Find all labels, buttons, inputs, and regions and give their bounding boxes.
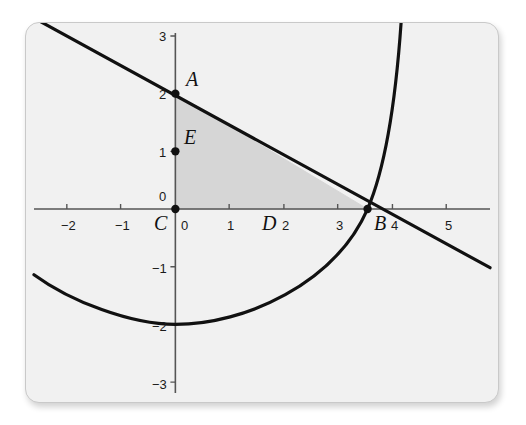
point-label-a: A [186, 69, 198, 89]
y-tick-label--3: −3 [152, 378, 167, 391]
point-label-d: D [262, 213, 276, 233]
x-tick-label-2: 2 [282, 219, 289, 232]
x-tick-label--2: −2 [61, 219, 76, 232]
y-tick-label-1: 1 [159, 146, 166, 159]
y-tick-label-2: 2 [159, 88, 166, 101]
figure-card: −2 −1 0 1 2 3 4 5 3 2 1 0 −1 −2 −3 A E C… [25, 22, 499, 403]
y-tick-label--1: −1 [152, 262, 167, 275]
point-label-e: E [184, 127, 196, 147]
point-b[interactable] [363, 205, 371, 213]
x-tick-label-3: 3 [336, 219, 343, 232]
point-c[interactable] [171, 205, 179, 213]
point-label-c: C [154, 213, 167, 233]
point-e[interactable] [171, 147, 179, 155]
point-label-b: B [374, 213, 386, 233]
x-tick-label-0: 0 [181, 219, 188, 232]
x-tick-label-4: 4 [391, 219, 398, 232]
figure-stage: −2 −1 0 1 2 3 4 5 3 2 1 0 −1 −2 −3 A E C… [0, 0, 526, 425]
x-tick-label--1: −1 [115, 219, 130, 232]
y-tick-label--2: −2 [152, 320, 167, 333]
y-tick-label-3: 3 [159, 30, 166, 43]
x-tick-label-1: 1 [227, 219, 234, 232]
y-tick-label-0: 0 [159, 190, 166, 203]
point-a[interactable] [171, 89, 179, 97]
x-tick-label-5: 5 [445, 219, 452, 232]
